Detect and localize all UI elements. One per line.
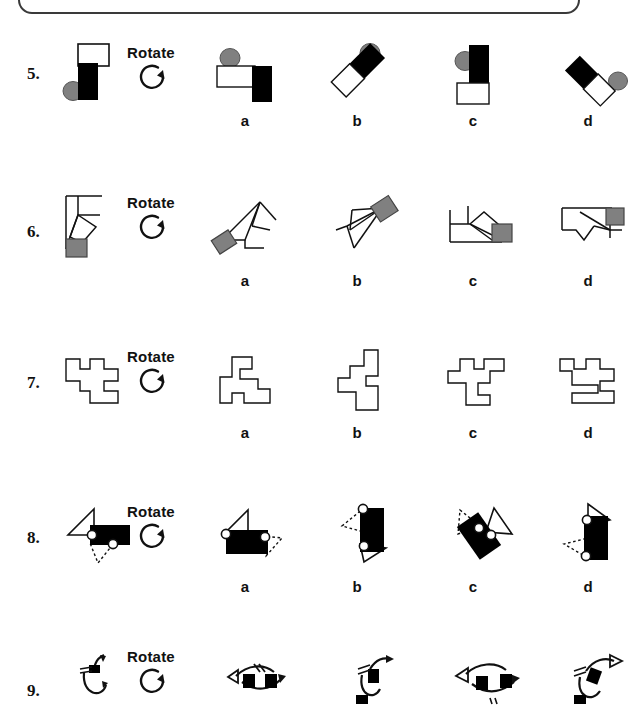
- question-7-label-a: a: [230, 424, 260, 441]
- question-8-option-b-figure[interactable]: [338, 500, 398, 568]
- question-8-prompt-figure: [64, 505, 128, 567]
- rotate-label-7: Rotate: [127, 348, 175, 365]
- question-7-option-b-figure[interactable]: [334, 348, 388, 414]
- question-6-label-a: a: [230, 272, 260, 289]
- question-5-label-c: c: [458, 112, 488, 129]
- rotate-label-6: Rotate: [127, 194, 175, 211]
- question-7-option-d-figure[interactable]: [556, 355, 626, 411]
- question-8-option-d-figure[interactable]: [562, 500, 624, 568]
- question-number-8: 8.: [27, 528, 40, 548]
- circular-arrow-clockwise-icon: [137, 664, 171, 698]
- question-7-label-d: d: [573, 424, 603, 441]
- question-9-option-a-figure[interactable]: [216, 662, 288, 706]
- question-7-prompt-figure: [64, 355, 126, 407]
- question-5-prompt-figure: [60, 43, 120, 105]
- question-7-option-a-figure[interactable]: [218, 355, 280, 411]
- question-9-prompt-figure: [72, 655, 128, 703]
- question-number-7: 7.: [27, 373, 40, 393]
- question-5-option-d-figure[interactable]: [558, 50, 630, 108]
- question-6-label-c: c: [458, 272, 488, 289]
- question-5-label-b: b: [342, 112, 372, 129]
- circular-arrow-clockwise-icon: [137, 519, 171, 553]
- question-8-label-c: c: [458, 578, 488, 595]
- question-9-option-d-figure[interactable]: [568, 655, 624, 705]
- question-7-option-c-figure[interactable]: [446, 355, 512, 411]
- question-9-option-b-figure[interactable]: [348, 655, 400, 705]
- question-5-option-b-figure[interactable]: [328, 42, 394, 108]
- question-8-label-a: a: [230, 578, 260, 595]
- question-5-option-c-figure[interactable]: [452, 44, 510, 106]
- question-8-option-c-figure[interactable]: [450, 504, 522, 566]
- question-5-option-a-figure[interactable]: [216, 48, 280, 104]
- question-8-option-a-figure[interactable]: [218, 508, 288, 564]
- rotate-label-8: Rotate: [127, 503, 175, 520]
- question-number-9: 9.: [27, 681, 40, 701]
- question-9-option-c-figure[interactable]: [448, 662, 524, 706]
- question-6-label-d: d: [573, 272, 603, 289]
- circular-arrow-clockwise-icon: [137, 364, 171, 398]
- question-6-label-b: b: [342, 272, 372, 289]
- question-5-label-d: d: [573, 112, 603, 129]
- instruction-box-bottom-edge: [18, 0, 580, 14]
- question-8-label-d: d: [573, 578, 603, 595]
- question-6-prompt-figure: [62, 193, 126, 259]
- question-6-option-a-figure[interactable]: [212, 196, 288, 258]
- question-6-option-c-figure[interactable]: [448, 202, 518, 252]
- circular-arrow-clockwise-icon: [137, 210, 171, 244]
- question-number-6: 6.: [27, 222, 40, 242]
- question-5-label-a: a: [230, 112, 260, 129]
- rotate-label-9: Rotate: [127, 648, 175, 665]
- question-7-label-b: b: [342, 424, 372, 441]
- question-8-label-b: b: [342, 578, 372, 595]
- question-7-label-c: c: [458, 424, 488, 441]
- question-6-option-d-figure[interactable]: [560, 204, 626, 250]
- circular-arrow-clockwise-icon: [137, 60, 171, 94]
- question-number-5: 5.: [27, 64, 40, 84]
- question-6-option-b-figure[interactable]: [330, 196, 402, 258]
- rotate-label-5: Rotate: [127, 44, 175, 61]
